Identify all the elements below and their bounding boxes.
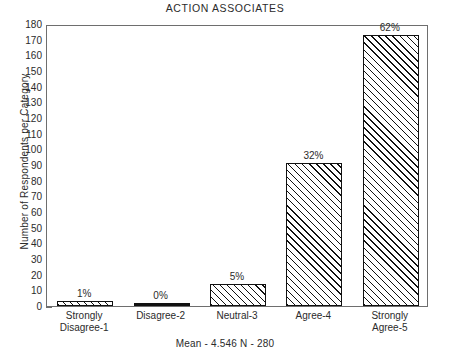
y-tick-label: 20 [0, 271, 42, 281]
y-tick-label: 110 [0, 130, 42, 140]
x-category-line: Disagree-1 [46, 322, 122, 334]
y-tick-label: 10 [0, 286, 42, 296]
x-category-line: Disagree-2 [122, 310, 198, 322]
bar-value-label-3: 5% [197, 271, 277, 282]
y-tick-mark [46, 307, 52, 308]
y-tick-label: 160 [0, 51, 42, 61]
y-tick-label: 80 [0, 177, 42, 187]
bar-3[interactable] [210, 284, 266, 306]
y-tick-label: 140 [0, 83, 42, 93]
x-category-label-3: Neutral-3 [199, 310, 275, 322]
y-tick-label: 0 [0, 302, 42, 312]
y-tick-label: 60 [0, 208, 42, 218]
y-tick-label: 90 [0, 161, 42, 171]
chart-footer: Mean - 4.546 N - 280 [0, 338, 450, 349]
bar-chart: ACTION ASSOCIATES Number of Respondents … [0, 0, 450, 355]
x-category-label-1: StronglyDisagree-1 [46, 310, 122, 333]
bar-value-label-5: 62% [350, 22, 430, 33]
x-category-line: Strongly [46, 310, 122, 322]
bar-value-label-2: 0% [121, 290, 201, 301]
y-tick-label: 130 [0, 98, 42, 108]
x-category-label-5: StronglyAgree-5 [352, 310, 428, 333]
x-category-line: Agree-4 [275, 310, 351, 322]
bar-2[interactable] [134, 303, 190, 306]
y-tick-label: 40 [0, 239, 42, 249]
y-tick-label: 50 [0, 224, 42, 234]
x-category-label-4: Agree-4 [275, 310, 351, 322]
plot-area [46, 25, 428, 307]
y-tick-label: 170 [0, 36, 42, 46]
y-tick-label: 100 [0, 145, 42, 155]
y-tick-label: 120 [0, 114, 42, 124]
bar-4[interactable] [286, 163, 342, 306]
bar-5[interactable] [363, 35, 419, 306]
bar-value-label-4: 32% [273, 150, 353, 161]
x-category-line: Agree-5 [352, 322, 428, 334]
y-tick-label: 180 [0, 20, 42, 30]
x-category-line: Strongly [352, 310, 428, 322]
chart-title: ACTION ASSOCIATES [0, 2, 450, 14]
y-tick-label: 30 [0, 255, 42, 265]
bar-value-label-1: 1% [44, 288, 124, 299]
bar-1[interactable] [57, 301, 113, 306]
y-tick-label: 70 [0, 192, 42, 202]
y-tick-label: 150 [0, 67, 42, 77]
x-category-label-2: Disagree-2 [122, 310, 198, 322]
x-category-line: Neutral-3 [199, 310, 275, 322]
